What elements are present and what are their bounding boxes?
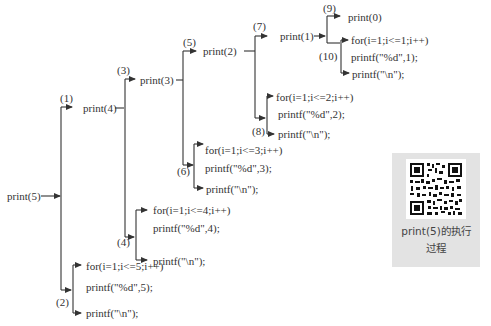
block-4-printd: printf("%d",4); — [153, 222, 220, 234]
qr-code-icon[interactable] — [406, 159, 466, 219]
step-label-3: (3) — [117, 64, 130, 76]
block-2-for: for(i=1;i<=5;i++) — [86, 260, 163, 272]
step-label-2: (2) — [56, 296, 69, 308]
block-6-for: for(i=1;i<=3;i++) — [205, 144, 282, 156]
step-label-1: (1) — [60, 92, 73, 104]
block-4-for: for(i=1;i<=4;i++) — [153, 204, 230, 216]
step-label-7: (7) — [253, 20, 266, 32]
block-8-for: for(i=1;i<=2;i++) — [276, 91, 353, 103]
block-10-newline: printf("\n"); — [352, 68, 404, 80]
step-label-10: (10) — [319, 50, 337, 62]
step-label-6: (6) — [177, 165, 190, 177]
block-6-printd: printf("%d",3); — [205, 162, 272, 174]
block-2-newline: printf("\n"); — [86, 307, 138, 319]
qr-card: print(5)的执行 过程 — [392, 153, 480, 267]
node-print-3: print(3) — [140, 74, 174, 86]
node-print-2: print(2) — [203, 45, 237, 57]
step-label-8: (8) — [252, 125, 265, 137]
node-print-0: print(0) — [348, 11, 382, 23]
step-label-9: (9) — [323, 2, 336, 14]
block-8-printd: printf("%d",2); — [278, 108, 345, 120]
recursion-diagram: print(5) print(4) print(3) print(2) prin… — [0, 0, 491, 326]
qr-caption-line2: 过程 — [392, 240, 480, 257]
node-print-4: print(4) — [83, 102, 117, 114]
block-10-for: for(i=1;i<=1;i++) — [351, 34, 428, 46]
block-10-printd: printf("%d",1); — [351, 51, 418, 63]
node-print-5: print(5) — [7, 190, 41, 202]
block-2-printd: printf("%d",5); — [86, 281, 153, 293]
qr-caption: print(5)的执行 过程 — [392, 223, 480, 257]
block-8-newline: printf("\n"); — [278, 128, 330, 140]
qr-caption-line1: print(5)的执行 — [392, 223, 480, 240]
node-print-1: print(1) — [280, 30, 314, 42]
block-6-newline: printf("\n"); — [206, 183, 258, 195]
step-label-4: (4) — [117, 236, 130, 248]
step-label-5: (5) — [183, 36, 196, 48]
